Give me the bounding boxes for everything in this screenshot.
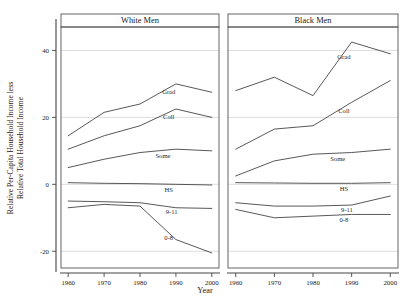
x-tick-label-1990-panel2: 1990 [345, 279, 359, 286]
y-axis-title-line1: Relative Per-Capita Household Income les… [6, 82, 15, 214]
series-label-grad-panel2: Grad [337, 53, 351, 60]
x-axis-title: Year [197, 286, 213, 295]
series-line-grad-panel1 [68, 84, 212, 136]
series-line-hs-panel2 [236, 183, 391, 184]
panel-title-2: Black Men [295, 16, 333, 25]
series-label-9-11-panel2: 9-11 [341, 206, 353, 213]
y-tick-label-20: 20 [42, 114, 49, 121]
series-line-0-8-panel2 [236, 209, 391, 217]
y-axis-title-line2: Relative Total Household Income [16, 96, 25, 199]
y-tick-label-0: 0 [46, 181, 50, 188]
x-tick-label-1970-panel1: 1970 [97, 279, 111, 286]
y-tick-label-40: 40 [42, 47, 49, 54]
panel-title-1: White Men [121, 16, 160, 25]
series-label-some-panel2: Some [330, 155, 345, 162]
x-tick-label-1980-panel2: 1980 [306, 279, 320, 286]
series-label-hs-panel1: HS [165, 186, 174, 193]
series-label-0-8-panel1: 0-8 [164, 234, 173, 241]
x-tick-label-1960-panel2: 1960 [229, 279, 243, 286]
x-tick-label-2000-panel1: 2000 [205, 279, 219, 286]
series-line-coll-panel2 [236, 81, 391, 150]
series-label-hs-panel2: HS [340, 185, 349, 192]
chart-figure: White MenBlack MenGradCollSomeHS9-110-8G… [0, 0, 410, 300]
series-label-0-8-panel2: 0-8 [340, 216, 349, 223]
series-label-coll-panel2: Coll [338, 107, 350, 114]
series-line-some-panel1 [68, 149, 212, 167]
x-tick-label-1980-panel1: 1980 [133, 279, 147, 286]
x-tick-label-1990-panel1: 1990 [169, 279, 183, 286]
panel-frame-2 [228, 27, 398, 268]
x-tick-label-2000-panel2: 2000 [383, 279, 397, 286]
series-label-grad-panel1: Grad [162, 88, 176, 95]
series-label-coll-panel1: Coll [163, 113, 175, 120]
series-line-coll-panel1 [68, 109, 212, 149]
series-label-some-panel1: Some [155, 152, 170, 159]
series-line-0-8-panel1 [68, 204, 212, 253]
panel-frame-1 [61, 27, 219, 268]
panel-frames-group: White MenBlack Men [61, 14, 398, 268]
x-tick-label-1960-panel1: 1960 [61, 279, 75, 286]
series-line-some-panel2 [236, 149, 391, 176]
x-tick-label-1970-panel2: 1970 [268, 279, 282, 286]
series-line-9-11-panel2 [236, 196, 391, 206]
y-tick-label--20: -20 [40, 248, 50, 255]
line-chart-svg: White MenBlack MenGradCollSomeHS9-110-8G… [0, 0, 410, 300]
series-line-9-11-panel1 [68, 201, 212, 208]
series-label-9-11-panel1: 9-11 [166, 208, 178, 215]
